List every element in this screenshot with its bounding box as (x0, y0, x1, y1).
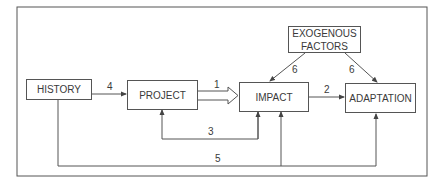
edge-label-4: 4 (107, 81, 113, 92)
node-adaptation-label: ADAPTATION (349, 92, 411, 105)
edge-label-6b: 6 (349, 64, 355, 75)
node-project: PROJECT (127, 80, 198, 110)
edge-label-2: 2 (324, 84, 330, 95)
node-impact-label: IMPACT (255, 91, 292, 104)
node-project-label: PROJECT (139, 89, 186, 102)
node-adaptation: ADAPTATION (345, 83, 416, 113)
node-history: HISTORY (26, 79, 92, 100)
edge-label-3: 3 (208, 126, 214, 137)
edge-label-5: 5 (215, 153, 221, 164)
node-exogenous-label-2: FACTORS (301, 40, 348, 53)
edge-label-6a: 6 (292, 64, 298, 75)
edge-label-1: 1 (214, 79, 220, 90)
node-exogenous-factors: EXOGENOUS FACTORS (288, 26, 361, 53)
node-exogenous-label-1: EXOGENOUS (292, 27, 356, 40)
node-impact: IMPACT (239, 82, 309, 112)
node-history-label: HISTORY (37, 83, 81, 96)
arrow-exogenous-impact (270, 53, 305, 81)
